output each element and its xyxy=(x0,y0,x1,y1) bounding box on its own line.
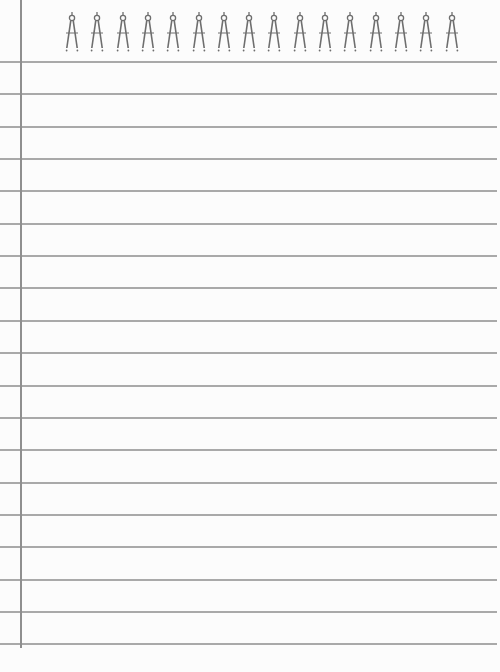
ruled-line xyxy=(0,352,497,354)
drawing-compass-icon xyxy=(343,10,357,56)
notepad-page xyxy=(0,0,500,672)
drawing-compass-icon xyxy=(267,10,281,56)
ruled-line xyxy=(0,223,497,225)
ruled-line xyxy=(0,385,497,387)
drawing-compass-icon xyxy=(65,10,79,56)
drawing-compass-icon xyxy=(318,10,332,56)
ruled-line xyxy=(0,611,497,613)
drawing-compass-icon xyxy=(217,10,231,56)
drawing-compass-icon xyxy=(192,10,206,56)
ruled-line xyxy=(0,158,497,160)
drawing-compass-icon xyxy=(141,10,155,56)
ruled-line xyxy=(0,126,497,128)
drawing-compass-icon xyxy=(394,10,408,56)
drawing-compass-icon xyxy=(166,10,180,56)
margin-line xyxy=(20,0,22,648)
ruled-line xyxy=(0,514,497,516)
ruled-line xyxy=(0,61,497,63)
ruled-line xyxy=(0,643,497,645)
ruled-line xyxy=(0,93,497,95)
ruled-line xyxy=(0,287,497,289)
ruled-line xyxy=(0,482,497,484)
ruled-line xyxy=(0,417,497,419)
ruled-line xyxy=(0,546,497,548)
drawing-compass-icon xyxy=(116,10,130,56)
drawing-compass-icon xyxy=(293,10,307,56)
ruled-line xyxy=(0,190,497,192)
drawing-compass-icon xyxy=(90,10,104,56)
ruled-line xyxy=(0,255,497,257)
drawing-compass-icon xyxy=(369,10,383,56)
drawing-compass-icon xyxy=(419,10,433,56)
drawing-compass-icon xyxy=(445,10,459,56)
ruled-line xyxy=(0,449,497,451)
binding-row xyxy=(0,10,500,56)
ruled-line xyxy=(0,320,497,322)
ruled-line xyxy=(0,579,497,581)
drawing-compass-icon xyxy=(242,10,256,56)
